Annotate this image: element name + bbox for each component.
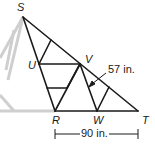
- measurement-57-in: 57 in.: [107, 64, 136, 75]
- point-label-u: U: [28, 60, 36, 71]
- point-label-v: V: [85, 54, 92, 65]
- point-label-w: W: [93, 115, 103, 126]
- point-label-r: R: [52, 115, 60, 126]
- truss-drawing: [0, 0, 155, 155]
- point-label-s: S: [17, 2, 24, 13]
- measurement-90-in: 90 in.: [80, 128, 109, 139]
- measure-arrow-57: [89, 73, 106, 87]
- point-label-t: T: [142, 115, 149, 126]
- truss-diagram: S U V R W T 57 in. 90 in.: [0, 0, 155, 155]
